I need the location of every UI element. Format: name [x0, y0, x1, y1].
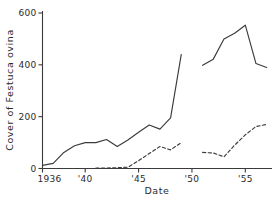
y-axis-title: Cover of Festuca ovina	[4, 29, 15, 151]
y-tick-label: 400	[18, 60, 36, 70]
festuca-ovina-line-chart: 0200400600 1936'40'45'50'55 Date Cover o…	[0, 0, 277, 199]
x-tick-label: '50	[185, 174, 200, 184]
series-dashed-series-segment-1	[96, 143, 181, 168]
series-solid-series-segment-1	[43, 54, 182, 165]
x-axis-tick-labels: 1936'40'45'50'55	[38, 174, 253, 184]
y-axis-tick-labels: 0200400600	[18, 8, 36, 174]
series-dashed-series-segment-2	[203, 124, 267, 156]
y-tick-label: 200	[18, 112, 36, 122]
series-solid-series-segment-2	[203, 25, 267, 67]
x-axis-title: Date	[144, 185, 169, 196]
y-tick-label: 600	[18, 8, 36, 18]
chart-container: 0200400600 1936'40'45'50'55 Date Cover o…	[0, 0, 277, 199]
x-tick-label: '45	[131, 174, 146, 184]
y-tick-label: 0	[30, 164, 36, 174]
x-axis-ticks	[43, 169, 246, 173]
data-series-layer	[43, 25, 267, 168]
x-tick-label: '40	[78, 174, 93, 184]
x-tick-label: 1936	[38, 174, 62, 184]
x-tick-label: '55	[238, 174, 253, 184]
y-axis-ticks	[39, 13, 43, 169]
